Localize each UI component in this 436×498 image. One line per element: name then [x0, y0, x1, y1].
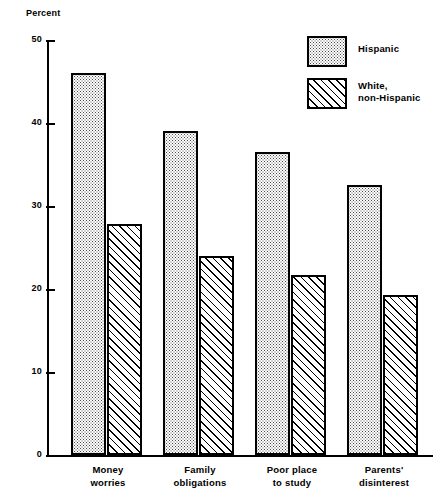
y-tick-label: 10 [18, 366, 42, 376]
y-tick-mark [46, 372, 55, 374]
bar-chart-figure: Percent 01020304050 MoneyworriesFamilyob… [0, 0, 436, 498]
y-tick-mark [46, 40, 55, 42]
chart-legend: HispanicWhite,non-Hispanic [307, 36, 433, 120]
bar-white-non-hispanic [107, 224, 142, 455]
y-tick-label: 40 [18, 117, 42, 127]
bar-hispanic [347, 185, 382, 455]
y-tick-mark [46, 206, 55, 208]
legend-item: Hispanic [307, 36, 433, 78]
legend-label: Hispanic [358, 43, 399, 55]
bar-white-non-hispanic [383, 295, 418, 455]
legend-swatch [307, 78, 347, 109]
x-axis-category-label: Parents'disinterest [329, 463, 436, 489]
y-tick-label: 30 [18, 200, 42, 210]
legend-label: White,non-Hispanic [358, 80, 421, 104]
y-tick-label: 0 [18, 449, 42, 459]
y-tick-label: 50 [18, 34, 42, 44]
legend-swatch [307, 36, 347, 67]
y-tick-label: 20 [18, 283, 42, 293]
bar-hispanic [71, 73, 106, 455]
y-tick-mark [46, 123, 55, 125]
y-tick-mark [46, 289, 55, 291]
bar-white-non-hispanic [291, 275, 326, 455]
y-axis-title: Percent [26, 8, 60, 18]
bar-white-non-hispanic [199, 256, 234, 455]
bar-hispanic [255, 152, 290, 455]
legend-item: White,non-Hispanic [307, 78, 433, 120]
y-axis-line [47, 40, 49, 455]
bar-hispanic [163, 131, 198, 455]
x-axis-line [47, 455, 433, 457]
y-tick-mark [46, 455, 55, 457]
